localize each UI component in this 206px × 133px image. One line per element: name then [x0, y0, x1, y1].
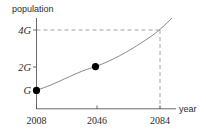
x-tick-label-2084: 2084: [150, 115, 170, 126]
y-tick-label-g: G: [23, 85, 31, 96]
y-tick-label-4g: 4G: [18, 25, 31, 36]
population-growth-chart: 4G 2G G 2008 2046 2084 population year: [0, 0, 206, 133]
data-point-2046-2g: [92, 63, 99, 70]
y-tick-label-2g: 2G: [18, 62, 31, 73]
y-axis-title: population: [12, 4, 54, 14]
x-tick-label-2046: 2046: [87, 115, 107, 126]
data-point-2008-g: [33, 87, 40, 94]
x-tick-label-2008: 2008: [27, 115, 47, 126]
x-axis-title: year: [179, 104, 197, 114]
population-curve: [37, 18, 173, 90]
chart-canvas: 4G 2G G 2008 2046 2084 population year: [0, 0, 206, 133]
